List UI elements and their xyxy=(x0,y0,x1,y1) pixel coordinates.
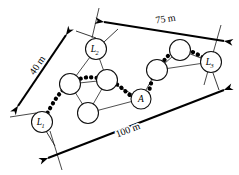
mesh-link xyxy=(100,59,104,70)
node-n1[interactable] xyxy=(60,74,81,95)
node-stub-line xyxy=(104,29,118,42)
node-n2[interactable] xyxy=(97,70,118,91)
mesh-link xyxy=(76,57,89,75)
node-l2[interactable]: L2 xyxy=(86,39,107,60)
network-diagram: L1L2L3A 40 m40 m75 m75 m100 m100 m xyxy=(0,0,239,175)
figure-container: L1L2L3A 40 m40 m75 m75 m100 m100 m xyxy=(0,0,239,175)
mesh-link xyxy=(167,64,200,69)
node-l3[interactable]: L3 xyxy=(201,52,222,73)
node-a[interactable]: A xyxy=(131,89,151,109)
mesh-link xyxy=(80,81,96,83)
node-stub-line xyxy=(213,73,219,90)
dim-75-line xyxy=(104,22,224,41)
extension-lines-group xyxy=(10,8,221,170)
dim-40-label: 40 m xyxy=(27,53,48,76)
node-label-subscript-l1: 1 xyxy=(41,122,44,129)
node-circle-n1 xyxy=(60,74,81,95)
node-n4[interactable] xyxy=(147,60,168,81)
node-circle-n4 xyxy=(147,60,168,81)
node-label-a: A xyxy=(137,94,144,104)
node-circle-n3 xyxy=(78,103,99,124)
dim-100-label: 100 m xyxy=(114,120,142,139)
mesh-link xyxy=(76,93,83,104)
node-circle-n5 xyxy=(170,40,191,61)
node-circle-n2 xyxy=(97,70,118,91)
mesh-link xyxy=(93,89,102,104)
mesh-link xyxy=(98,102,131,111)
extension-line xyxy=(92,8,99,38)
node-n3[interactable] xyxy=(78,103,99,124)
node-label-subscript-l3: 3 xyxy=(209,62,213,69)
extension-line xyxy=(50,131,62,170)
dim-75-label: 75 m xyxy=(155,11,177,25)
node-l1[interactable]: L1 xyxy=(32,112,53,133)
node-label-subscript-l2: 2 xyxy=(95,49,98,56)
extension-line xyxy=(10,113,36,117)
node-n5[interactable] xyxy=(170,40,191,61)
